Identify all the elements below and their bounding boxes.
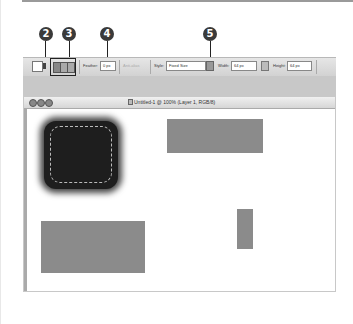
separator (119, 60, 120, 74)
selection-marquee (50, 126, 112, 183)
separator (79, 60, 80, 74)
callout-5: 5 (203, 27, 217, 41)
gray-rectangle-bottom-left (41, 221, 145, 273)
document-icon (128, 99, 133, 105)
tool-preset-arrow-icon[interactable] (43, 63, 46, 69)
feathered-selection-shape (44, 121, 118, 189)
document-title-bar[interactable]: Untitled-1 @ 100% (Layer 1, RGB/8) (24, 97, 335, 109)
minimize-window-icon[interactable] (37, 99, 45, 107)
gray-rectangle-top-right (167, 119, 263, 153)
options-bar: Feather: 0 px Anti-alias Style: Fixed Si… (23, 57, 336, 77)
separator (316, 60, 317, 74)
separator (150, 60, 151, 74)
canvas[interactable] (27, 109, 335, 291)
style-dropdown[interactable]: Fixed Size (166, 61, 206, 71)
width-label: Width: (218, 63, 229, 68)
callout-3: 3 (62, 27, 76, 41)
tool-preset-picker[interactable] (32, 61, 43, 72)
callout-4: 4 (100, 27, 114, 41)
style-label: Style: (154, 63, 164, 68)
gray-rectangle-tall (237, 209, 253, 249)
feather-label: Feather: (83, 63, 98, 68)
zoom-window-icon[interactable] (45, 99, 53, 107)
document-title: Untitled-1 @ 100% (Layer 1, RGB/8) (134, 99, 215, 105)
feather-field[interactable]: 0 px (100, 61, 116, 71)
style-dropdown-arrow-icon[interactable] (206, 61, 214, 71)
document-window: Untitled-1 @ 100% (Layer 1, RGB/8) (23, 96, 336, 292)
workspace-background (23, 76, 336, 96)
page-left-edge (0, 0, 1, 324)
anti-alias-checkbox[interactable]: Anti-alias (123, 63, 139, 68)
callout-3-line (69, 41, 70, 58)
height-field[interactable]: 64 px (287, 61, 312, 71)
height-label: Height: (273, 63, 286, 68)
swap-dimensions-icon[interactable] (261, 61, 269, 71)
close-window-icon[interactable] (29, 99, 37, 107)
top-rule (22, 0, 353, 2)
width-field[interactable]: 64 px (231, 61, 257, 71)
subtract-from-selection-button[interactable] (67, 62, 75, 73)
selection-mode-buttons (50, 58, 76, 76)
callout-2: 2 (39, 27, 53, 41)
